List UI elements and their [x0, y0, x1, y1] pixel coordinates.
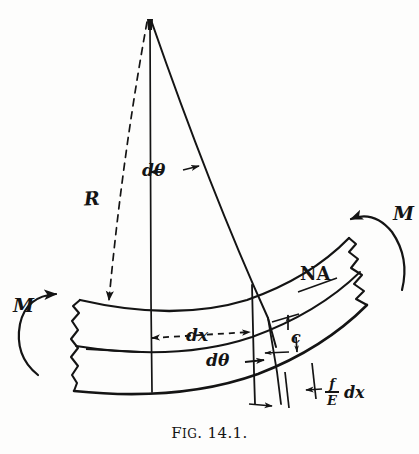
strain-dimension-left-tick: [285, 372, 289, 408]
strain-dimension-right-tick: [312, 363, 316, 399]
caption-prefix: F: [171, 424, 182, 442]
dtheta-bottom-arrow: [245, 360, 264, 362]
beam-right-break: [349, 238, 367, 305]
radius-line-slanted: [151, 20, 276, 347]
strain-expression-label: f E dx: [325, 377, 365, 407]
figure-caption: FIG. 14.1.: [0, 424, 419, 442]
figure-bending-beam: R dθ dθ dx c NA M M f E dx FIG. 14.1.: [0, 0, 419, 454]
strain-numerator: f: [327, 377, 337, 391]
moment-label-left: M: [13, 296, 34, 315]
strain-denominator: E: [325, 393, 339, 407]
dtheta-arrow-right: [183, 166, 199, 170]
strain-dimension-arrow: [306, 389, 322, 390]
dtheta-bottom-label: dθ: [206, 352, 229, 369]
moment-label-right: M: [393, 204, 414, 223]
c-label: c: [291, 330, 301, 346]
apex-point: [147, 19, 153, 30]
radius-label: R: [84, 189, 101, 209]
dx-label: dx: [186, 327, 208, 344]
neutral-axis-line: [76, 272, 360, 352]
caption-number: . 14.1.: [197, 424, 248, 442]
c-dimension-left-arrow: [265, 352, 289, 353]
cross-section-vertical: [252, 285, 255, 404]
neutral-axis-label: NA: [300, 265, 330, 283]
radius-line-vertical: [150, 20, 152, 392]
strain-dimension-bottom-arrow: [249, 404, 272, 406]
dtheta-top-label: dθ: [142, 162, 165, 179]
strain-fraction: f E: [325, 377, 339, 407]
cross-section-rotated: [268, 318, 281, 404]
neutral-axis-left-tick: [86, 349, 140, 352]
strain-suffix: dx: [344, 383, 365, 402]
caption-smallcaps: IG: [182, 427, 197, 441]
